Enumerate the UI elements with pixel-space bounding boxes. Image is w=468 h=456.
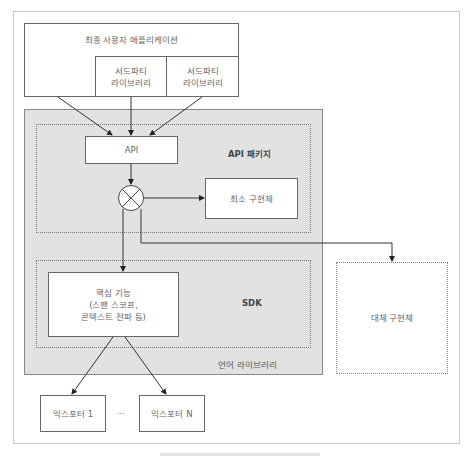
switch-icon [119,186,144,211]
connector-lines [0,0,468,456]
figure-caption-truncated [150,450,330,456]
